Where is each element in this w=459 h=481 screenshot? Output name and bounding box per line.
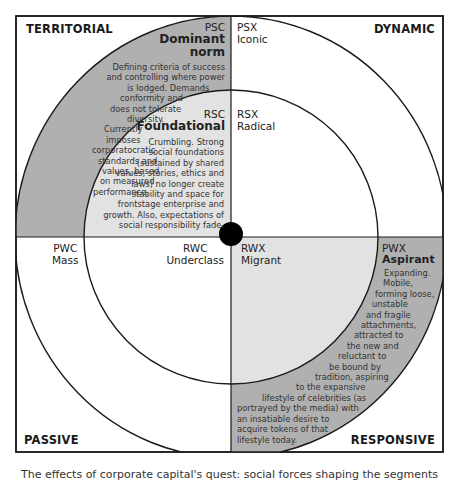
segment-rwc: RWC Underclass — [166, 242, 224, 266]
segment-pwc: PWC Mass — [52, 242, 78, 266]
segment-name: Iconic — [237, 33, 268, 45]
segment-name: Radical — [237, 120, 275, 132]
corner-label-passive: PASSIVE — [24, 433, 79, 447]
segment-pwx: PWX Aspirant — [382, 242, 435, 266]
segment-code: RWC — [166, 242, 224, 254]
segment-code: PSX — [237, 21, 268, 33]
segment-psx: PSX Iconic — [237, 21, 268, 45]
segment-rwx: RWX Migrant — [241, 242, 281, 266]
segment-name: Underclass — [166, 254, 224, 266]
segment-rsc-description: Crumbling. Strong social foundations (su… — [64, 137, 224, 231]
segment-name: norm — [159, 46, 225, 59]
segment-name: Aspirant — [382, 254, 435, 266]
segment-name: Mass — [52, 254, 78, 266]
corner-label-dynamic: DYNAMIC — [374, 22, 435, 36]
segment-name: Migrant — [241, 254, 281, 266]
segment-code: RSX — [237, 108, 275, 120]
segment-code: RWX — [241, 242, 281, 254]
segment-psc: PSC Dominant norm — [159, 21, 225, 59]
corner-label-territorial: TERRITORIAL — [26, 22, 113, 36]
segment-rsc: RSC Foundational — [136, 108, 225, 133]
segment-pwx-description: Expanding. Mobile, forming loose, unstab… — [234, 268, 444, 445]
segment-code: PWC — [52, 242, 78, 254]
segment-name: Foundational — [136, 120, 225, 133]
figure-caption: The effects of corporate capital's quest… — [0, 468, 459, 481]
segment-rsx: RSX Radical — [237, 108, 275, 132]
